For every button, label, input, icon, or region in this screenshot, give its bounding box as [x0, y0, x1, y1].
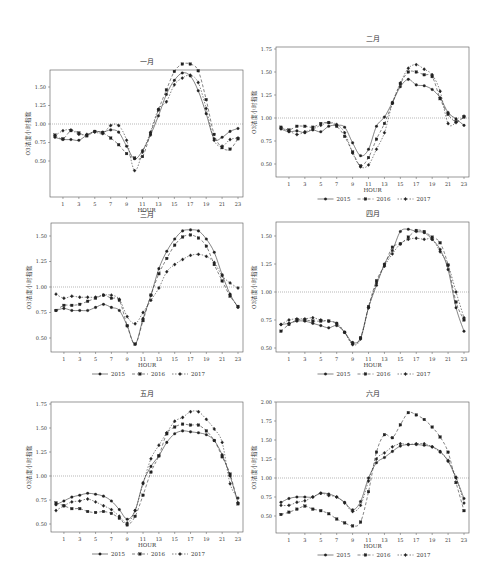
y-tick-label: 1.50 [261, 437, 272, 443]
data-point-marker [134, 322, 137, 325]
legend-item-2016: 2016 [151, 551, 165, 557]
y-tick-label: 0.75 [261, 317, 272, 323]
data-point-marker [312, 320, 315, 323]
x-axis-label: HOUR [138, 542, 157, 548]
data-point-marker [205, 430, 208, 433]
series-2016 [54, 63, 240, 160]
data-point-marker [134, 509, 137, 512]
data-point-marker [319, 492, 322, 495]
series-2017 [55, 253, 240, 326]
x-tick-label: 7 [110, 536, 113, 542]
x-tick-label: 21 [219, 536, 225, 542]
data-point-marker [109, 124, 112, 127]
x-tick-label: 13 [156, 536, 162, 542]
legend-item-2017: 2017 [417, 371, 431, 377]
data-point-marker [391, 436, 394, 439]
data-point-marker [150, 465, 153, 468]
x-tick-label: 23 [461, 181, 467, 187]
data-point-marker [189, 229, 192, 232]
chart-title: 一月 [140, 58, 154, 66]
data-point-marker [455, 301, 458, 304]
data-point-marker [351, 525, 354, 528]
data-point-marker [205, 245, 208, 248]
data-point-marker [197, 432, 200, 435]
data-point-marker [359, 504, 362, 507]
data-point-marker [288, 511, 291, 514]
x-tick-label: 13 [156, 356, 162, 362]
data-point-marker [304, 505, 307, 508]
data-point-marker [158, 267, 161, 270]
data-point-marker [110, 512, 113, 515]
data-point-marker [296, 508, 299, 511]
data-point-marker [229, 295, 232, 298]
legend-item-2015: 2015 [337, 371, 351, 377]
data-point-marker [319, 509, 322, 512]
x-tick-label: 9 [126, 536, 129, 542]
data-point-marker [197, 81, 200, 84]
data-point-marker [165, 93, 168, 96]
data-point-marker [237, 305, 240, 308]
data-point-marker [296, 496, 299, 499]
data-point-marker [404, 197, 407, 200]
data-point-marker [364, 198, 367, 201]
data-point-marker [221, 136, 224, 139]
data-point-marker [86, 510, 89, 513]
data-point-marker [280, 513, 283, 516]
x-tick-label: 21 [445, 356, 451, 362]
x-tick-label: 3 [303, 356, 306, 362]
data-point-marker [280, 501, 283, 504]
data-point-marker [197, 69, 200, 72]
data-point-marker [375, 451, 378, 454]
data-point-marker [407, 78, 410, 81]
x-tick-label: 19 [429, 181, 435, 187]
data-point-marker [181, 236, 184, 239]
y-tick-label: 1.00 [35, 121, 46, 127]
series-line [281, 238, 464, 345]
x-tick-label: 1 [62, 536, 65, 542]
legend-item-2017: 2017 [417, 196, 431, 202]
data-point-marker [63, 307, 66, 310]
y-tick-label: 0.50 [261, 513, 272, 519]
x-tick-label: 9 [351, 181, 354, 187]
y-tick-label: 0.50 [36, 521, 47, 527]
data-point-marker [94, 500, 97, 503]
data-point-marker [463, 330, 466, 333]
data-point-marker [118, 309, 121, 312]
data-point-marker [324, 554, 327, 557]
data-point-marker [287, 318, 290, 321]
data-point-marker [455, 306, 458, 309]
data-point-marker [110, 508, 113, 511]
data-point-marker [383, 122, 386, 125]
x-tick-label: 19 [429, 356, 435, 362]
data-point-marker [158, 272, 161, 275]
chart-panel-5: 五月0.500.751.001.251.501.7513579111315171… [0, 390, 248, 580]
data-point-marker [141, 155, 144, 158]
x-tick-label: 9 [351, 356, 354, 362]
data-point-marker [423, 418, 426, 421]
data-point-marker [455, 118, 458, 121]
data-point-marker [86, 492, 89, 495]
data-point-marker [126, 315, 129, 318]
x-tick-label: 3 [78, 356, 81, 362]
data-point-marker [71, 309, 74, 312]
data-point-marker [407, 67, 410, 70]
data-point-marker [383, 131, 386, 134]
data-point-marker [165, 441, 168, 444]
series-2015 [55, 430, 240, 521]
data-point-marker [404, 372, 407, 375]
x-tick-label: 15 [397, 537, 403, 543]
data-point-marker [364, 373, 367, 376]
data-point-marker [78, 309, 81, 312]
x-axis-label: HOUR [138, 362, 157, 368]
data-point-marker [142, 494, 145, 497]
data-point-marker [383, 433, 386, 436]
data-point-marker [463, 124, 466, 127]
data-point-marker [134, 343, 137, 346]
y-tick-label: 1.75 [36, 401, 47, 407]
data-point-marker [173, 79, 176, 82]
y-tick-label: 1.00 [36, 473, 47, 479]
data-point-marker [335, 495, 338, 498]
y-tick-label: 0.50 [35, 158, 46, 164]
data-point-marker [391, 249, 394, 252]
data-point-marker [431, 445, 434, 448]
